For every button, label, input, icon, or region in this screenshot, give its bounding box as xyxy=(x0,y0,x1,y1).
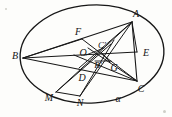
segment-MN-chord xyxy=(56,92,80,96)
segment-AC xyxy=(132,22,137,81)
segment-MCp xyxy=(56,44,111,92)
triangle-abc xyxy=(23,22,137,81)
segment-NCp xyxy=(80,40,114,96)
cevian-lines xyxy=(23,22,137,96)
segment-AN xyxy=(80,22,132,96)
geometry-canvas xyxy=(0,0,172,117)
geometry-figure: A B C E F O C′ B′ G D M N α xyxy=(0,0,172,117)
